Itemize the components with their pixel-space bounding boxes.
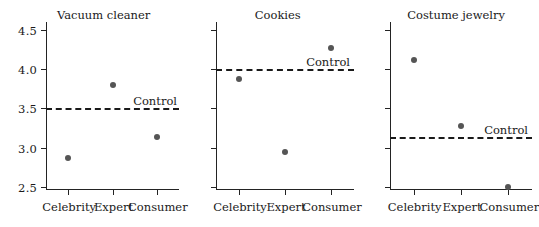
data-point [65,155,71,161]
y-tick-label: 4.0 [18,63,37,77]
y-tick-label: 3.0 [18,142,37,156]
x-tick: Expert [285,190,286,195]
x-tick-label-expert: Expert [266,200,305,214]
y-axis-line [390,22,391,190]
control-reference-line [46,108,179,110]
panel-title: Cookies [255,8,301,22]
panel-costume-jewelry: Costume jewelry CelebrityExpertConsumerC… [360,0,538,227]
x-tick-label-celebrity: Celebrity [388,200,442,214]
panel-cookies: Cookies CelebrityExpertConsumerControl [185,0,360,227]
x-tick: Consumer [331,190,332,195]
control-label: Control [484,123,528,137]
x-tick: Expert [461,190,462,195]
panel-title: Vacuum cleaner [57,8,150,22]
plot-area: CelebrityExpertConsumerControl [390,22,532,190]
x-tick: Celebrity [414,190,415,195]
x-tick: Consumer [508,190,509,195]
y-tick [211,108,216,109]
data-point [236,76,242,82]
x-tick: Celebrity [68,190,69,195]
x-tick-label-celebrity: Celebrity [213,200,267,214]
x-tick-label-expert: Expert [442,200,481,214]
y-tick [385,108,390,109]
control-reference-line [216,69,354,71]
x-tick-label-consumer: Consumer [128,200,188,214]
data-point [154,134,160,140]
panel-vacuum-cleaner: Vacuum cleaner 2.53.03.54.04.5CelebrityE… [0,0,185,227]
y-tick [211,148,216,149]
y-tick: 2.5 [41,187,46,188]
y-tick [385,69,390,70]
x-tick: Expert [113,190,114,195]
y-tick [211,187,216,188]
plot-area: CelebrityExpertConsumerControl [216,22,354,190]
y-tick [385,187,390,188]
control-reference-line [390,137,532,139]
y-tick: 4.0 [41,69,46,70]
y-axis-line [46,22,47,190]
data-point [328,45,334,51]
y-tick [211,30,216,31]
y-tick-label: 4.5 [18,24,37,38]
panel-title: Costume jewelry [407,8,505,22]
y-tick [385,148,390,149]
plot-area: 2.53.03.54.04.5CelebrityExpertConsumerCo… [46,22,179,190]
x-tick-label-consumer: Consumer [302,200,362,214]
control-label: Control [133,94,177,108]
y-tick: 3.0 [41,148,46,149]
x-tick: Celebrity [239,190,240,195]
data-point [411,57,417,63]
x-tick-label-consumer: Consumer [480,200,539,214]
y-tick: 4.5 [41,30,46,31]
data-point [110,82,116,88]
y-tick-label: 2.5 [18,181,37,195]
y-axis-line [216,22,217,190]
y-tick [385,30,390,31]
x-tick-label-celebrity: Celebrity [42,200,96,214]
control-label: Control [306,55,350,69]
x-tick: Consumer [157,190,158,195]
data-point [458,123,464,129]
y-tick-label: 3.5 [18,102,37,116]
data-point [282,149,288,155]
